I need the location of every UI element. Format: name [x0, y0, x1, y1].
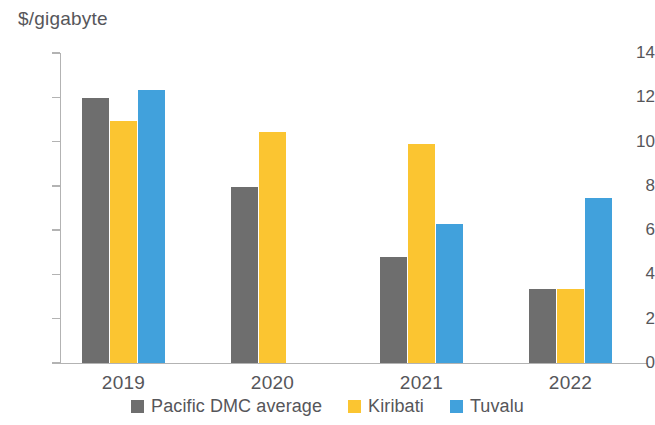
- bar: [82, 98, 109, 363]
- legend-label: Pacific DMC average: [151, 396, 322, 417]
- legend-item: Tuvalu: [450, 396, 524, 417]
- chart-legend: Pacific DMC averageKiribatiTuvalu: [0, 396, 655, 417]
- y-axis-tick-label: 4: [611, 264, 655, 284]
- legend-item: Pacific DMC average: [131, 396, 322, 417]
- y-axis-tick-label: 10: [611, 132, 655, 152]
- x-axis-label: 2019: [82, 372, 165, 394]
- y-axis-tick: [52, 274, 60, 275]
- bar-chart: $/gigabyte 14121086420 2019202020212022 …: [0, 0, 655, 425]
- y-axis-tick: [52, 185, 60, 186]
- legend-swatch-icon: [450, 400, 463, 413]
- legend-label: Tuvalu: [470, 396, 524, 417]
- y-axis-tick-label: 8: [611, 176, 655, 196]
- bar: [557, 289, 584, 363]
- y-axis-tick: [52, 52, 60, 53]
- y-axis-tick-label: 2: [611, 309, 655, 329]
- legend-item: Kiribati: [348, 396, 424, 417]
- y-axis-tick-label: 6: [611, 220, 655, 240]
- y-axis-line: [60, 53, 61, 364]
- y-axis-tick: [52, 318, 60, 319]
- bar: [231, 187, 258, 363]
- y-axis-unit-label: $/gigabyte: [18, 8, 108, 30]
- legend-label: Kiribati: [368, 396, 424, 417]
- y-axis-tick-label: 12: [611, 87, 655, 107]
- y-axis-tick-label: 14: [611, 43, 655, 63]
- bar: [110, 121, 137, 363]
- bar: [585, 198, 612, 363]
- x-axis-label: 2021: [380, 372, 463, 394]
- legend-swatch-icon: [348, 400, 361, 413]
- x-axis-label: 2022: [529, 372, 612, 394]
- bar: [380, 257, 407, 363]
- legend-swatch-icon: [131, 400, 144, 413]
- x-axis-label: 2020: [231, 372, 314, 394]
- y-axis-tick: [52, 362, 60, 363]
- y-axis-tick: [52, 141, 60, 142]
- y-axis-tick: [52, 229, 60, 230]
- x-axis-line: [60, 363, 648, 364]
- bar: [259, 132, 286, 363]
- bar: [138, 90, 165, 363]
- bar: [529, 289, 556, 363]
- bar: [408, 144, 435, 363]
- y-axis-tick: [52, 97, 60, 98]
- y-axis-tick-label: 0: [611, 353, 655, 373]
- bar: [436, 224, 463, 364]
